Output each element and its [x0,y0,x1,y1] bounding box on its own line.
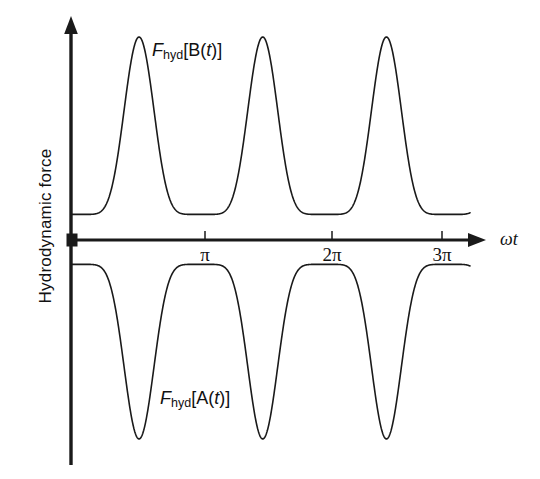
curve-label-b-close: )] [211,40,222,60]
x-tick-label-pi: π [193,244,217,266]
figure-container: Hydrodynamic force π 2π 3π ωt Fhyd[B(t)]… [0,0,540,479]
curve-label-a-sub: hyd [171,396,191,410]
x-axis-omega: ω [500,229,513,249]
curve-label-a-open: [A( [191,388,214,408]
origin-marker [67,234,78,247]
y-axis-arrowhead [64,16,78,34]
x-tick-label-2pi: 2π [317,244,347,266]
curve-label-b: Fhyd[B(t)] [152,41,222,59]
curve-lower-a [71,264,470,439]
curve-label-b-f: F [152,40,163,60]
x-tick-label-3pi: 3π [427,244,457,266]
x-axis-label: ωt [500,229,518,250]
x-axis-t: t [513,229,518,249]
x-axis-arrowhead [468,233,486,247]
curve-label-b-open: [B( [183,40,206,60]
curve-label-a-close: )] [219,388,230,408]
y-axis-label: Hydrodynamic force [36,96,56,356]
curve-label-a-f: F [160,388,171,408]
curve-label-a: Fhyd[A(t)] [160,389,230,407]
chart-canvas [0,0,540,479]
curve-upper-b [71,37,470,214]
curve-label-b-sub: hyd [163,48,183,62]
